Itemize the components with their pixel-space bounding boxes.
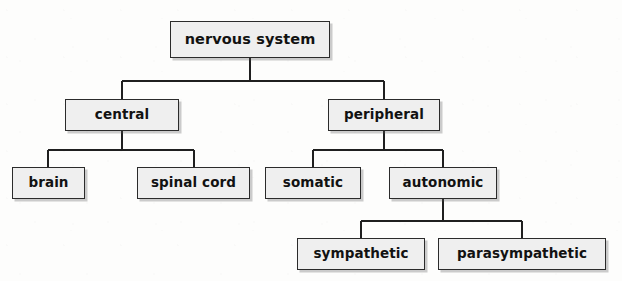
node-somatic: somatic [265, 167, 361, 199]
node-label-parasympathetic: parasympathetic [457, 247, 587, 261]
node-central: central [65, 99, 179, 131]
node-label-peripheral: peripheral [344, 108, 424, 122]
nervous-system-diagram: nervous systemcentralperipheralbrainspin… [0, 0, 622, 281]
node-sympathetic: sympathetic [297, 238, 425, 270]
node-spinal-cord: spinal cord [137, 167, 250, 199]
node-label-nervous-system: nervous system [185, 32, 316, 47]
node-brain: brain [12, 167, 85, 199]
node-label-somatic: somatic [283, 176, 343, 190]
node-label-brain: brain [28, 176, 68, 190]
node-label-spinal-cord: spinal cord [151, 176, 236, 190]
node-autonomic: autonomic [389, 167, 497, 199]
node-nervous-system: nervous system [170, 21, 330, 58]
node-parasympathetic: parasympathetic [438, 238, 606, 270]
node-label-autonomic: autonomic [403, 176, 484, 190]
node-peripheral: peripheral [328, 99, 440, 131]
node-label-sympathetic: sympathetic [313, 247, 408, 261]
node-label-central: central [95, 108, 149, 122]
